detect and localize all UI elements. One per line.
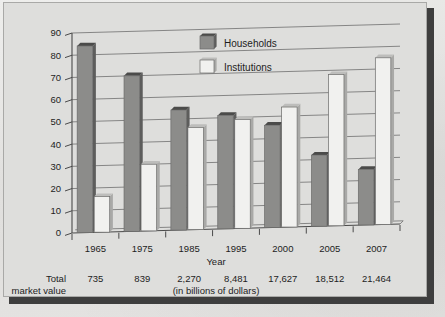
bar-institutions-1985 bbox=[188, 124, 207, 229]
bar-households-2005 bbox=[311, 152, 330, 226]
bar-institutions-1985-side bbox=[203, 124, 206, 229]
bar-institutions-1995-side bbox=[250, 116, 253, 228]
legend-swatch-side-0 bbox=[214, 33, 217, 49]
y-axis-tick-label: 60 bbox=[50, 94, 61, 105]
gridline bbox=[72, 24, 400, 33]
bar-households-1985-face bbox=[171, 110, 187, 230]
frame-shadow-right bbox=[427, 8, 434, 299]
y-axis-tick-label: 70 bbox=[50, 72, 61, 83]
bar-households-1985 bbox=[171, 107, 190, 230]
total-market-value-label-line2: market value bbox=[12, 285, 66, 296]
y-axis-tick-label: 40 bbox=[50, 139, 61, 150]
y-axis-tick-label: 90 bbox=[50, 27, 61, 38]
total-market-value-1975: 839 bbox=[134, 273, 150, 284]
bar-households-1965 bbox=[77, 43, 96, 233]
bar-institutions-1975 bbox=[141, 161, 160, 231]
bar-institutions-2005-top bbox=[328, 71, 347, 74]
bar-households-2007-face bbox=[358, 169, 374, 225]
bar-institutions-1995 bbox=[235, 116, 254, 228]
y-axis-tick bbox=[65, 77, 72, 79]
total-market-value-1995: 8,481 bbox=[224, 273, 248, 284]
bar-institutions-2005 bbox=[328, 71, 347, 225]
bar-households-2007 bbox=[358, 166, 377, 225]
bar-households-2000 bbox=[265, 122, 284, 227]
bar-institutions-2005-face bbox=[328, 75, 344, 226]
legend-item-households: Households bbox=[200, 33, 277, 49]
y-axis-tick bbox=[65, 189, 72, 191]
total-market-value-2000: 17,627 bbox=[268, 273, 297, 284]
bar-households-2007-top bbox=[358, 166, 377, 169]
bar-institutions-1975-side bbox=[157, 161, 160, 231]
chart-svg: 0102030405060708090 19651975198519952000… bbox=[4, 3, 428, 298]
total-market-value-1965: 735 bbox=[87, 273, 103, 284]
category-labels-group: 1965197519851995200020052007 bbox=[72, 225, 400, 254]
bar-households-1985-top bbox=[171, 107, 190, 110]
bar-chart: 0102030405060708090 19651975198519952000… bbox=[4, 3, 428, 298]
bar-households-1965-face bbox=[77, 46, 93, 233]
bar-institutions-1975-top bbox=[141, 161, 160, 164]
bar-institutions-2007-face bbox=[375, 58, 391, 225]
category-label-2007: 2007 bbox=[366, 243, 387, 254]
y-axis-tick bbox=[65, 211, 72, 213]
bar-households-1995-top bbox=[218, 112, 237, 115]
bar-institutions-2007-side bbox=[391, 55, 394, 225]
y-axis-tick-label: 10 bbox=[50, 205, 61, 216]
y-axis-tick bbox=[65, 55, 72, 57]
bar-households-1975 bbox=[124, 73, 143, 232]
legend-swatch-1 bbox=[200, 60, 214, 73]
category-label-1985: 1985 bbox=[179, 243, 200, 254]
bar-institutions-2000-top bbox=[282, 104, 301, 107]
bar-institutions-1965-top bbox=[94, 193, 113, 196]
footer-table-group: Totalmarket value7358392,2708,48117,6271… bbox=[12, 273, 391, 296]
total-market-value-label-line1: Total bbox=[46, 273, 66, 284]
category-label-1975: 1975 bbox=[132, 243, 153, 254]
y-axis-tick-label: 50 bbox=[50, 116, 61, 127]
total-market-value-2005: 18,512 bbox=[315, 273, 344, 284]
frame-shadow-bottom bbox=[9, 297, 434, 304]
legend-swatch-top-1 bbox=[200, 57, 217, 60]
bar-households-2005-top bbox=[311, 152, 330, 155]
y-axis-tick bbox=[65, 166, 72, 168]
y-axis-tick bbox=[65, 122, 72, 124]
gridline bbox=[72, 91, 400, 100]
y-axis-tick-label: 20 bbox=[50, 183, 61, 194]
legend-label-0: Households bbox=[224, 38, 277, 49]
bar-households-1975-top bbox=[124, 73, 143, 76]
units-note: (in billions of dollars) bbox=[173, 285, 260, 296]
category-label-2005: 2005 bbox=[319, 243, 340, 254]
bar-institutions-1995-face bbox=[235, 119, 251, 228]
bar-households-2000-top bbox=[265, 122, 284, 125]
x-axis-title: Year bbox=[206, 256, 225, 267]
bar-institutions-2000 bbox=[282, 104, 301, 227]
total-market-value-1985: 2,270 bbox=[177, 273, 201, 284]
bar-institutions-2007 bbox=[375, 55, 394, 225]
y-axis-tick-label: 80 bbox=[50, 50, 61, 61]
bar-institutions-2000-face bbox=[282, 107, 298, 227]
bar-institutions-1965 bbox=[94, 193, 113, 232]
bar-households-1995-face bbox=[218, 115, 234, 228]
category-label-1965: 1965 bbox=[85, 243, 106, 254]
bar-households-1975-face bbox=[124, 76, 139, 232]
bar-institutions-1985-top bbox=[188, 124, 207, 127]
bar-households-1995 bbox=[218, 112, 237, 229]
bar-institutions-1965-side bbox=[110, 193, 113, 232]
bar-households-2000-face bbox=[265, 125, 281, 227]
y-axis-tick-label: 0 bbox=[56, 227, 61, 238]
floor-right-edge bbox=[400, 221, 403, 224]
legend-swatch-top-0 bbox=[200, 33, 217, 36]
y-axis-tick bbox=[65, 144, 72, 146]
bar-households-1965-top bbox=[77, 43, 96, 46]
y-axis-tick bbox=[65, 233, 72, 235]
legend-item-institutions: Institutions bbox=[200, 57, 272, 73]
bar-institutions-1995-top bbox=[235, 116, 254, 119]
bar-institutions-2007-top bbox=[375, 55, 394, 58]
y-axis-tick bbox=[65, 100, 72, 102]
legend-swatch-side-1 bbox=[214, 57, 217, 73]
bar-institutions-1965-face bbox=[94, 197, 110, 233]
bar-institutions-1975-face bbox=[141, 164, 157, 231]
y-axis-tick bbox=[65, 33, 72, 35]
bar-institutions-1985-face bbox=[188, 127, 204, 229]
category-label-2000: 2000 bbox=[272, 243, 293, 254]
bar-institutions-2000-side bbox=[297, 104, 300, 227]
legend-group: HouseholdsInstitutions bbox=[200, 33, 277, 73]
